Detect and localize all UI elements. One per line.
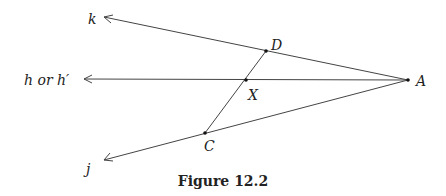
figure-caption: Figure 12.2 <box>0 173 446 189</box>
point-x <box>244 78 248 82</box>
point-d <box>264 49 268 53</box>
label-x: X <box>248 88 258 102</box>
label-c: C <box>204 139 215 153</box>
arrowhead-j-icon <box>104 153 113 161</box>
point-c <box>203 131 207 135</box>
label-a: A <box>416 74 426 88</box>
diagram-canvas <box>0 0 446 196</box>
label-k: k <box>88 12 96 26</box>
label-h: h or h′ <box>24 73 69 87</box>
ray-k <box>104 17 408 80</box>
label-d: D <box>271 38 282 52</box>
point-a <box>406 78 410 82</box>
